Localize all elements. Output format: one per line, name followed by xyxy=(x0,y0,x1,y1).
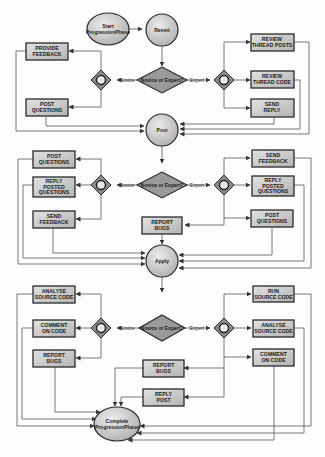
svg-text:BUGS: BUGS xyxy=(156,368,172,374)
box-report-bugs-novice: REPORT BUGS xyxy=(33,350,75,367)
gateway-novice-2 xyxy=(91,175,111,195)
box-send-reply: SEND REPLY xyxy=(251,99,294,117)
box-post-questions-2: POST QUESTIONS xyxy=(33,151,75,168)
apply-label: Apply xyxy=(155,258,169,264)
svg-text:SOURCE CODE: SOURCE CODE xyxy=(254,294,293,300)
complete-node: Complete ProgressionPhase xyxy=(94,407,140,441)
svg-text:REPLY: REPLY xyxy=(264,107,281,113)
gateway-expert-3 xyxy=(214,318,234,338)
svg-text:THREAD CODE: THREAD CODE xyxy=(253,79,292,85)
box-analyse-source-code-expert: ANALYSE SOURCE CODE xyxy=(253,320,294,337)
flowchart-canvas: Novice Expert Start ProgressionPhase Rev… xyxy=(0,0,325,457)
box-reply-post: REPLY POST xyxy=(143,389,184,406)
complete-label-2: ProgressionPhase xyxy=(95,424,139,430)
svg-text:QUESTIONS: QUESTIONS xyxy=(258,188,289,194)
svg-text:SOURCE CODE: SOURCE CODE xyxy=(35,294,74,300)
svg-text:POST: POST xyxy=(156,397,171,403)
flowchart-svg: Novice Expert Start ProgressionPhase Rev… xyxy=(0,0,325,457)
svg-text:FEEDBACK: FEEDBACK xyxy=(40,219,69,225)
svg-text:SOURCE CODE: SOURCE CODE xyxy=(254,328,293,334)
svg-text:ON CODE: ON CODE xyxy=(261,357,286,363)
svg-text:BUGS: BUGS xyxy=(47,358,63,364)
svg-text:QUESTIONS: QUESTIONS xyxy=(32,107,63,113)
revert-label: Revert xyxy=(154,27,170,33)
box-send-feedback-expert: SEND FEEDBACK xyxy=(252,150,294,167)
apply-node: Apply xyxy=(146,245,178,277)
svg-text:ON CODE: ON CODE xyxy=(42,328,67,334)
box-comment-on-code-novice: COMMENT ON CODE xyxy=(33,320,75,337)
box-analyse-source-code-novice: ANALYSE SOURCE CODE xyxy=(33,286,75,303)
post-node: Post xyxy=(146,114,178,146)
svg-text:Novice or Expert?: Novice or Expert? xyxy=(141,182,184,188)
box-review-thread-code: REVIEW THREAD CODE xyxy=(251,71,294,88)
novice-label-1: Novice xyxy=(119,77,135,83)
gateway-novice-3 xyxy=(91,318,111,338)
svg-text:QUESTIONS: QUESTIONS xyxy=(257,218,288,224)
box-reply-posted-questions-expert: REPLY POSTED QUESTIONS xyxy=(252,176,294,196)
novice-label-3: Novice xyxy=(119,325,135,331)
gateway-expert-1 xyxy=(214,70,234,90)
decision-3: Novice or Expert? xyxy=(139,315,185,341)
expert-label-1: Expert xyxy=(190,77,205,83)
start-label-2: ProgressionPhase xyxy=(86,29,130,35)
decision-label-1: Novice or Expert? xyxy=(141,77,184,83)
svg-text:BUGS: BUGS xyxy=(155,225,171,231)
box-report-bugs-2: REPORT BUGS xyxy=(142,217,182,234)
decision-1: Novice or Expert? xyxy=(137,67,187,93)
box-reply-posted-questions-novice: REPLY POSTED QUESTIONS xyxy=(33,177,75,197)
svg-text:THREAD POSTS: THREAD POSTS xyxy=(252,42,293,48)
novice-label-2: Novice xyxy=(119,182,135,188)
gateway-expert-2 xyxy=(214,175,234,195)
svg-text:QUESTIONS: QUESTIONS xyxy=(39,159,70,165)
expert-label-3: Expert xyxy=(190,325,205,331)
svg-text:FEEDBACK: FEEDBACK xyxy=(259,158,288,164)
revert-node: Revert xyxy=(146,14,178,46)
post-label: Post xyxy=(157,127,168,133)
svg-text:Novice or Expert?: Novice or Expert? xyxy=(141,325,184,331)
box-review-thread-posts: REVIEW THREAD POSTS xyxy=(251,34,294,51)
box-report-bugs-expert: REPORT BUGS xyxy=(143,360,184,377)
gateway-novice-1 xyxy=(91,70,111,90)
box-post-questions-1: POST QUESTIONS xyxy=(26,99,68,116)
box-run-source-code: RUN SOURCE CODE xyxy=(253,286,294,302)
start-node: Start ProgressionPhase xyxy=(86,13,130,45)
box-send-feedback-novice: SEND FEEDBACK xyxy=(33,211,75,228)
expert-label-2: Expert xyxy=(190,182,205,188)
box-comment-on-code-expert: COMMENT ON CODE xyxy=(253,349,294,366)
svg-text:QUESTIONS: QUESTIONS xyxy=(39,189,70,195)
box-post-questions-expert: POST QUESTIONS xyxy=(251,210,293,227)
decision-2: Novice or Expert? xyxy=(137,172,187,198)
svg-text:FEEDBACK: FEEDBACK xyxy=(33,51,62,57)
box-provide-feedback: PROVIDE FEEDBACK xyxy=(26,43,68,60)
